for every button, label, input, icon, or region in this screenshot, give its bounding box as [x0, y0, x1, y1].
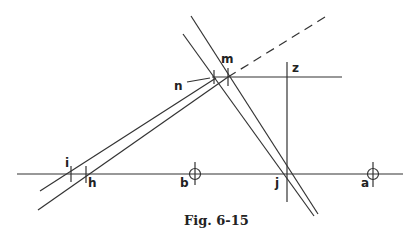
dashed-extension	[228, 14, 330, 77]
n-leader-line	[187, 78, 210, 82]
label-h: h	[88, 176, 97, 190]
label-m: m	[221, 52, 234, 66]
label-b: b	[180, 176, 189, 190]
ray-h-m	[38, 77, 228, 210]
diagram-canvas: m n z i h b j a Fig. 6-15	[0, 0, 412, 235]
label-i: i	[65, 156, 69, 170]
label-z: z	[292, 61, 299, 75]
figure-caption: Fig. 6-15	[184, 213, 249, 228]
label-n: n	[174, 79, 183, 93]
label-a: a	[361, 176, 369, 190]
ray-through-j-2	[191, 16, 318, 214]
label-j: j	[274, 176, 279, 190]
